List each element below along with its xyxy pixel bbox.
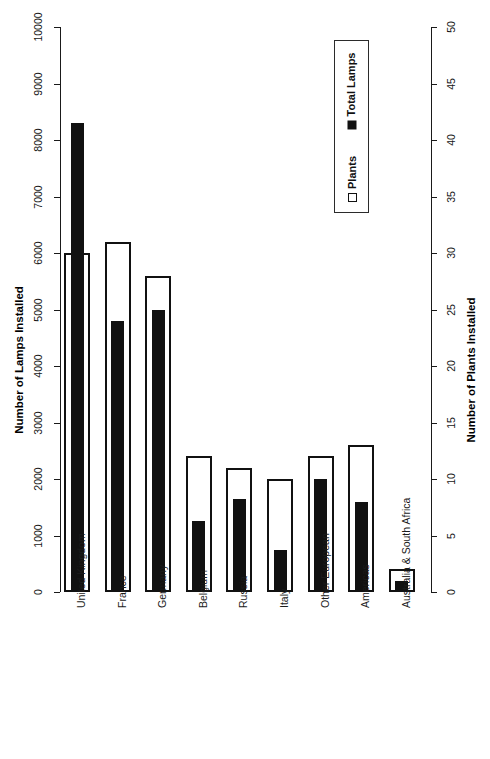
- right-axis-tick: [431, 423, 437, 424]
- right-axis-tick-label: 30: [445, 247, 457, 259]
- left-axis-tick-label: 6000: [32, 241, 44, 264]
- left-axis-tick-label: 4000: [32, 354, 44, 377]
- right-axis-tick-label: 0: [445, 589, 457, 595]
- right-axis-tick-label: 45: [445, 78, 457, 90]
- left-axis-tick-label: 7000: [32, 185, 44, 208]
- right-axis-tick: [431, 592, 437, 593]
- right-axis-tick-label: 5: [445, 533, 457, 539]
- right-axis-tick-label: 25: [445, 304, 457, 316]
- left-axis-tick: [54, 197, 60, 198]
- left-axis-tick: [54, 310, 60, 311]
- right-axis-tick-label: 40: [445, 134, 457, 146]
- left-axis-tick-label: 5000: [32, 298, 44, 321]
- left-axis-line: [60, 27, 61, 592]
- right-axis-tick: [431, 140, 437, 141]
- category-label: France: [116, 575, 128, 608]
- left-axis-tick-label: 9000: [32, 72, 44, 95]
- right-axis-tick: [431, 310, 437, 311]
- bar-plants: [145, 276, 171, 592]
- plot-area: [0, 0, 490, 759]
- category-label: Other European: [319, 533, 331, 608]
- right-axis-tick-label: 20: [445, 360, 457, 372]
- left-axis-tick: [54, 366, 60, 367]
- right-axis-tick: [431, 197, 437, 198]
- right-axis-title: Number of Plants Installed: [465, 297, 477, 442]
- left-axis-tick: [54, 27, 60, 28]
- left-axis-title: Number of Lamps Installed: [13, 286, 25, 434]
- legend-entry: Plants: [335, 141, 368, 217]
- right-axis-tick: [431, 479, 437, 480]
- category-label: Russia: [237, 576, 249, 608]
- category-label: Italy: [278, 589, 290, 608]
- legend-label: Plants: [346, 156, 358, 189]
- left-axis-tick-label: 10000: [32, 12, 44, 41]
- category-label: Germany: [156, 565, 168, 608]
- right-axis-tick-label: 35: [445, 191, 457, 203]
- left-axis-tick-label: 0: [32, 589, 44, 595]
- right-axis-tick: [431, 27, 437, 28]
- legend-label: Total Lamps: [346, 53, 358, 117]
- left-axis-tick: [54, 140, 60, 141]
- chart-figure: 0100020003000400050006000700080009000100…: [0, 0, 490, 759]
- category-label: Americas: [359, 564, 371, 608]
- category-label: United Kingdom: [75, 533, 87, 608]
- category-label: Belgium: [197, 570, 209, 608]
- category-label: Australia & South Africa: [400, 498, 412, 608]
- left-axis-tick: [54, 84, 60, 85]
- left-axis-tick-label: 8000: [32, 128, 44, 151]
- left-axis-tick: [54, 479, 60, 480]
- left-axis-tick: [54, 253, 60, 254]
- bar-total-lamps: [111, 321, 124, 592]
- right-axis-tick-label: 10: [445, 473, 457, 485]
- bar-total-lamps: [71, 123, 84, 592]
- left-axis-tick-label: 3000: [32, 411, 44, 434]
- left-axis-tick: [54, 536, 60, 537]
- right-axis-tick-label: 50: [445, 21, 457, 33]
- left-axis-tick: [54, 592, 60, 593]
- bar-plants: [226, 468, 252, 592]
- legend-entry: Total Lamps: [335, 53, 368, 129]
- right-axis-tick: [431, 253, 437, 254]
- left-axis-tick-label: 1000: [32, 524, 44, 547]
- bar-total-lamps: [274, 550, 287, 592]
- right-axis-tick-label: 15: [445, 417, 457, 429]
- right-axis-tick: [431, 366, 437, 367]
- legend-swatch-filled-icon: [347, 120, 356, 129]
- right-axis-tick: [431, 536, 437, 537]
- bar-plants: [267, 479, 293, 592]
- bar-plants: [105, 242, 131, 592]
- right-axis-tick: [431, 84, 437, 85]
- bar-total-lamps: [152, 310, 165, 593]
- left-axis-tick: [54, 423, 60, 424]
- chart-legend: Total LampsPlants: [334, 40, 369, 213]
- legend-swatch-hollow-icon: [347, 193, 356, 202]
- left-axis-tick-label: 2000: [32, 467, 44, 490]
